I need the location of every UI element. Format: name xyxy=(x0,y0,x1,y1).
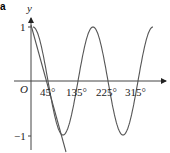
x-tick-label: 315° xyxy=(125,87,146,98)
x-tick-label: 45° xyxy=(40,87,55,98)
chart: a y 1 −1 O 45° 135° 225° 315° xyxy=(0,0,170,153)
origin-label: O xyxy=(20,84,28,95)
y-tick-label: 1 xyxy=(20,22,26,33)
y-tick-label: −1 xyxy=(14,131,26,142)
x-tick-label: 135° xyxy=(66,87,87,98)
x-tick-label: 225° xyxy=(96,87,117,98)
y-axis-label: y xyxy=(27,3,32,14)
